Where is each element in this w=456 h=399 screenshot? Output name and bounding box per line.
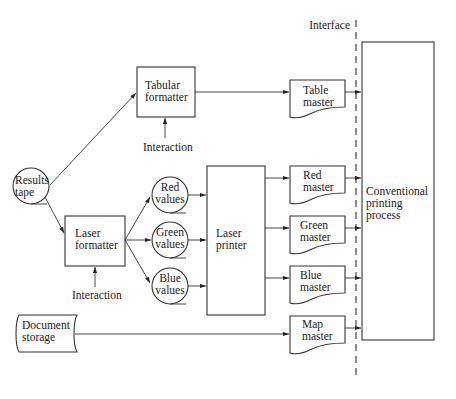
blue-values-node: Blue values (152, 268, 188, 304)
svg-text:process: process (366, 209, 401, 222)
table-master-doc: Table master (290, 80, 345, 118)
interaction-label-laser: Interaction (72, 289, 122, 301)
node-label: tape (15, 186, 34, 199)
node-label: master (300, 281, 331, 293)
red-values-node: Red values (152, 177, 188, 213)
node-label: Laser (75, 227, 101, 239)
laser-formatter-box: Laser formatter (65, 216, 125, 266)
node-label: Blue (300, 269, 322, 281)
node-label: Conventional (366, 185, 428, 197)
tabular-formatter-box: Tabular formatter (137, 67, 195, 117)
node-label: Results (15, 174, 49, 186)
edge-results-to-laser-formatter (45, 197, 64, 233)
node-label: printer (216, 239, 247, 252)
node-label: Blue (159, 272, 181, 284)
node-label: values (155, 238, 185, 250)
node-label: Tabular (145, 79, 180, 91)
node-label: master (302, 330, 333, 342)
blue-master-doc: Blue master (290, 266, 345, 304)
node-label: values (155, 193, 185, 205)
laser-printer-box: Laser printer (207, 166, 265, 315)
green-values-node: Green values (152, 222, 188, 258)
node-label: Table (303, 84, 328, 96)
conventional-printing-process-box: Conventional printing process (362, 42, 434, 340)
node-label: formatter (145, 91, 188, 103)
map-master-doc: Map master (290, 316, 345, 354)
edge-results-to-tabular (50, 93, 136, 185)
edge-laser-formatter-to-red (125, 197, 150, 240)
node-label: storage (22, 331, 55, 344)
green-master-doc: Green master (290, 216, 345, 254)
node-label: Red (303, 169, 322, 181)
red-master-doc: Red master (290, 166, 345, 204)
node-label: master (303, 181, 334, 193)
results-tape-node: Results tape (13, 168, 49, 204)
interaction-label-tabular: Interaction (143, 141, 193, 153)
node-label: master (303, 96, 334, 108)
node-label: Laser (216, 227, 242, 239)
flow-diagram: Interface Conventional printing process … (0, 0, 456, 399)
node-label: master (300, 231, 331, 243)
node-label: formatter (75, 239, 118, 251)
node-label: Document (22, 319, 71, 331)
node-label: process (366, 209, 401, 222)
node-label: Green (300, 219, 328, 231)
svg-text:Conventional: Conventional (366, 185, 428, 197)
interface-label: Interface (309, 19, 350, 31)
document-storage-node: Document storage (16, 315, 77, 352)
edge-laser-formatter-to-blue (125, 240, 150, 283)
node-label: Green (156, 226, 184, 238)
node-label: Red (161, 181, 180, 193)
node-label: values (155, 284, 185, 296)
